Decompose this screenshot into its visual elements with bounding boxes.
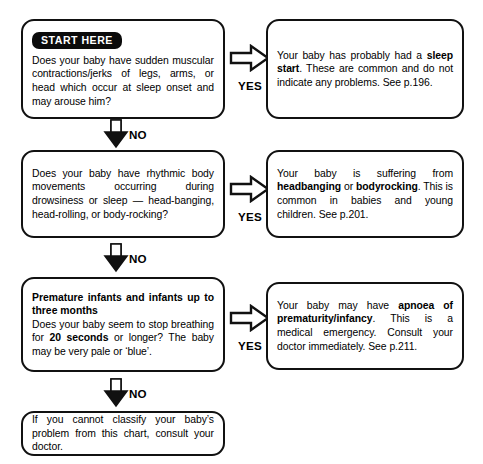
yes-connector-1: YES <box>229 44 271 90</box>
final-advice-box[interactable]: If you cannot classify your baby’s probl… <box>21 411 225 456</box>
arrow-down-icon <box>103 378 129 408</box>
flowchart-canvas: START HERE Does your baby have sudden mu… <box>0 0 483 464</box>
answer-box-2[interactable]: Your baby is suffering from headbanging … <box>266 150 464 238</box>
question-box-2[interactable]: Does your baby have rhythmic body moveme… <box>21 150 225 238</box>
answer-seg: Your baby may have <box>277 300 398 311</box>
no-connector-3: NO <box>103 378 161 410</box>
yes-connector-3: YES <box>229 304 271 350</box>
question-text-2: Does your baby have rhythmic body moveme… <box>32 167 214 221</box>
arrow-right-icon <box>229 175 271 203</box>
question-text-1: Does your baby have sudden muscular cont… <box>32 54 214 108</box>
no-label-3: NO <box>129 387 147 400</box>
answer-text-3: Your baby may have apnoea of prematurity… <box>277 299 453 353</box>
start-here-badge-wrap: START HERE <box>23 30 223 54</box>
final-advice-body: If you cannot classify your baby’s probl… <box>23 413 223 454</box>
question-body-2: Does your baby have rhythmic body moveme… <box>23 167 223 221</box>
question-body-3: Premature infants and infants up to thre… <box>23 291 223 359</box>
no-label-1: NO <box>129 128 147 141</box>
arrow-right-icon <box>229 44 271 72</box>
arrow-down-icon <box>103 243 129 273</box>
question-body-1: Does your baby have sudden muscular cont… <box>23 54 223 108</box>
no-connector-2: NO <box>103 243 161 275</box>
answer-seg: or <box>341 181 356 192</box>
final-advice-text: If you cannot classify your baby’s probl… <box>32 413 214 454</box>
answer-seg: . These are common and do not indicate a… <box>277 63 453 88</box>
answer-seg: Your baby has probably had a <box>277 50 427 61</box>
no-label-2: NO <box>129 252 147 265</box>
answer-seg-bold: headbanging <box>277 181 341 192</box>
answer-body-1: Your baby has probably had a sleep start… <box>268 49 462 90</box>
answer-text-2: Your baby is suffering from headbanging … <box>277 167 453 221</box>
yes-connector-2: YES <box>229 175 271 221</box>
yes-label-2: YES <box>229 210 271 223</box>
yes-label-3: YES <box>229 339 271 352</box>
start-here-badge: START HERE <box>32 32 122 49</box>
answer-box-1[interactable]: Your baby has probably had a sleep start… <box>266 19 464 119</box>
arrow-down-icon <box>103 119 129 149</box>
question-lead-3: Premature infants and infants up to thre… <box>32 291 214 318</box>
answer-seg-bold: bodyrocking <box>356 181 418 192</box>
question-box-1[interactable]: START HERE Does your baby have sudden mu… <box>21 19 225 119</box>
question-text-3: Does your baby seem to stop breathing fo… <box>32 318 214 359</box>
no-connector-1: NO <box>103 119 161 151</box>
answer-seg: Your baby is suffering from <box>277 168 453 179</box>
answer-body-3: Your baby may have apnoea of prematurity… <box>268 299 462 353</box>
answer-body-2: Your baby is suffering from headbanging … <box>268 167 462 221</box>
answer-text-1: Your baby has probably had a sleep start… <box>277 49 453 90</box>
arrow-right-icon <box>229 304 271 332</box>
answer-box-3[interactable]: Your baby may have apnoea of prematurity… <box>266 282 464 370</box>
question-box-3[interactable]: Premature infants and infants up to thre… <box>21 277 225 372</box>
question-seg-bold: 20 seconds <box>50 332 109 343</box>
yes-label-1: YES <box>229 79 271 92</box>
